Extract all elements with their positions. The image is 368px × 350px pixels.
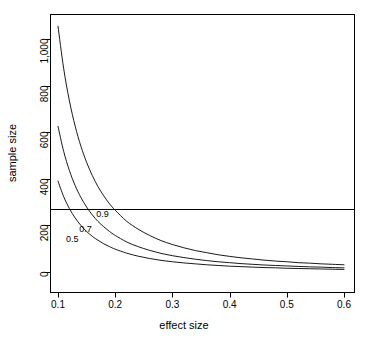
x-tick-label-2: 0.3 bbox=[165, 299, 179, 310]
x-tick-label-0: 0.1 bbox=[51, 299, 65, 310]
y-tick-label-3: 600 bbox=[39, 132, 50, 172]
x-tick-label-4: 0.5 bbox=[280, 299, 294, 310]
curve-series-0.5 bbox=[58, 181, 344, 269]
curve-annotation-0.5: 0.5 bbox=[66, 234, 79, 244]
y-axis-title: sample size bbox=[6, 103, 18, 203]
plot-frame bbox=[51, 15, 355, 293]
y-tick-label-2: 400 bbox=[39, 178, 50, 218]
curve-annotation-0.9: 0.9 bbox=[96, 209, 109, 219]
curve-series-0.7 bbox=[58, 126, 344, 267]
x-tick-label-1: 0.2 bbox=[108, 299, 122, 310]
y-tick-label-4: 800 bbox=[39, 85, 50, 125]
curve-series bbox=[58, 26, 344, 269]
x-tick-label-3: 0.4 bbox=[223, 299, 237, 310]
plot-canvas bbox=[0, 0, 368, 350]
curve-series-0.9 bbox=[58, 26, 344, 265]
y-tick-label-1: 200 bbox=[39, 225, 50, 265]
y-tick-label-0: 0 bbox=[39, 272, 50, 312]
x-axis-ticks bbox=[59, 293, 345, 298]
curve-annotation-0.7: 0.7 bbox=[79, 224, 92, 234]
power-analysis-chart: effect size sample size 0.10.20.30.40.50… bbox=[0, 0, 368, 350]
x-tick-label-5: 0.6 bbox=[337, 299, 351, 310]
x-axis-title: effect size bbox=[0, 319, 368, 331]
y-tick-label-5: 1,000 bbox=[39, 39, 50, 79]
